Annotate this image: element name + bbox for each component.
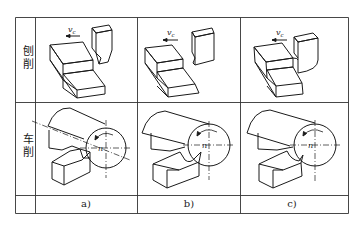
column-label-a: a) [36, 198, 136, 209]
planing-a-drawing [50, 25, 112, 98]
turning-a-n-label: n [98, 144, 103, 153]
row-label-turning-char-1: 车 [21, 133, 34, 146]
row-label-turning-char-2: 削 [21, 146, 34, 159]
planing-b-vc-label: vc [167, 28, 175, 38]
turning-c-drawing [247, 110, 340, 188]
turning-b-drawing [142, 111, 235, 188]
row-label-planing-char-2: 削 [21, 58, 34, 71]
planing-c-drawing [254, 33, 318, 97]
planing-a-vc-label: vc [68, 25, 76, 35]
column-label-c: c) [242, 198, 342, 209]
row-label-planing: 刨削 [19, 45, 35, 71]
turning-a-drawing [32, 108, 132, 185]
row-label-turning: 车削 [19, 133, 35, 159]
row-label-planing-char-1: 刨 [21, 45, 34, 58]
turning-b-n-label: n [202, 141, 207, 150]
turning-c-n-label: n [308, 141, 313, 150]
diagram-svg: vc vc vc [0, 0, 358, 225]
planing-c-vc-label: vc [276, 28, 284, 38]
planing-b-drawing [145, 28, 214, 97]
column-label-b: b) [139, 198, 239, 209]
diagram-figure: vc vc vc [0, 0, 358, 225]
